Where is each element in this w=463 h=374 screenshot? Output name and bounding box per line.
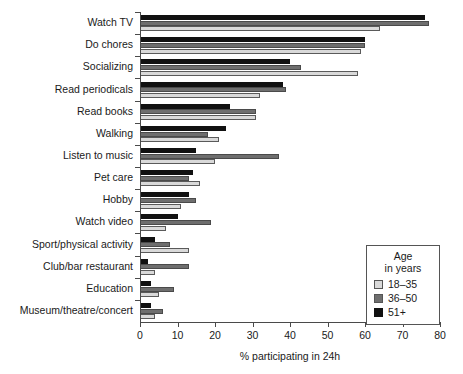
y-axis-label: Listen to music	[5, 150, 133, 161]
x-axis-tick	[140, 322, 141, 327]
legend-item-label: 51+	[388, 306, 406, 318]
bar-18-35	[140, 314, 155, 319]
bar-36-50	[140, 65, 301, 70]
bar-51plus	[140, 192, 189, 197]
bar-18-35	[140, 49, 361, 54]
y-axis-label: Hobby	[5, 194, 133, 205]
bar-51plus	[140, 37, 365, 42]
y-axis-label: Pet care	[5, 172, 133, 183]
bar-group	[140, 12, 440, 34]
y-axis-tick	[135, 34, 140, 35]
bar-51plus	[140, 15, 425, 20]
bar-36-50	[140, 43, 365, 48]
bar-51plus	[140, 237, 155, 242]
medium-gray-swatch	[374, 294, 383, 303]
bar-36-50	[140, 109, 256, 114]
legend-item-label: 18–35	[388, 278, 417, 290]
y-axis-label: Socializing	[5, 61, 133, 72]
bar-36-50	[140, 154, 279, 159]
legend-item: 36–50	[374, 291, 439, 305]
y-axis-tick	[135, 278, 140, 279]
bar-18-35	[140, 248, 189, 253]
x-axis-tick-label: 70	[388, 329, 418, 341]
legend-item: 18–35	[374, 277, 439, 291]
light-gray-swatch	[374, 280, 383, 289]
bar-51plus	[140, 281, 151, 286]
bar-group	[140, 101, 440, 123]
x-axis-tick-label: 0	[125, 329, 155, 341]
y-axis-label: Watch TV	[5, 17, 133, 28]
y-axis-tick	[135, 300, 140, 301]
legend-title-line-1: Age	[367, 250, 439, 262]
bar-group	[140, 211, 440, 233]
y-axis-label: Read books	[5, 106, 133, 117]
y-axis-tick	[135, 211, 140, 212]
bar-chart: Watch TVDo choresSocializingRead periodi…	[0, 0, 463, 374]
y-axis-label: Club/bar restaurant	[5, 261, 133, 272]
bar-18-35	[140, 137, 219, 142]
bar-group	[140, 56, 440, 78]
bar-51plus	[140, 104, 230, 109]
bar-51plus	[140, 82, 283, 87]
y-axis-label: Walking	[5, 128, 133, 139]
bar-36-50	[140, 264, 189, 269]
bar-51plus	[140, 259, 148, 264]
legend-items: 18–3536–5051+	[367, 277, 439, 319]
legend-title-line-2: in years	[367, 262, 439, 274]
bar-group	[140, 167, 440, 189]
bar-36-50	[140, 132, 208, 137]
bar-36-50	[140, 287, 174, 292]
bar-36-50	[140, 176, 189, 181]
y-axis-tick	[135, 167, 140, 168]
bar-51plus	[140, 59, 290, 64]
bar-51plus	[140, 214, 178, 219]
bar-group	[140, 78, 440, 100]
y-axis-tick	[135, 145, 140, 146]
x-axis-tick	[178, 322, 179, 327]
y-axis-tick	[135, 123, 140, 124]
bar-18-35	[140, 26, 380, 31]
bar-36-50	[140, 242, 170, 247]
y-axis-tick	[135, 256, 140, 257]
x-axis-tick-label: 30	[238, 329, 268, 341]
bar-36-50	[140, 21, 429, 26]
y-axis-label: Do chores	[5, 39, 133, 50]
bar-18-35	[140, 159, 215, 164]
x-axis-tick	[215, 322, 216, 327]
x-axis-tick	[440, 322, 441, 327]
y-axis-label: Museum/theatre/concert	[5, 305, 133, 316]
bar-51plus	[140, 148, 196, 153]
bar-18-35	[140, 71, 358, 76]
y-axis-label: Read periodicals	[5, 84, 133, 95]
legend-item-label: 36–50	[388, 292, 417, 304]
y-axis-tick	[135, 78, 140, 79]
y-axis-tick	[135, 189, 140, 190]
bar-51plus	[140, 126, 226, 131]
y-axis-labels: Watch TVDo choresSocializingRead periodi…	[0, 0, 133, 374]
x-axis-tick-label: 20	[200, 329, 230, 341]
x-axis-tick-label: 80	[425, 329, 455, 341]
bar-18-35	[140, 204, 181, 209]
bar-51plus	[140, 303, 151, 308]
bar-18-35	[140, 93, 260, 98]
x-axis-tick-label: 50	[313, 329, 343, 341]
x-axis-tick	[290, 322, 291, 327]
x-axis-tick-label: 10	[163, 329, 193, 341]
y-axis-line	[140, 12, 141, 322]
bar-18-35	[140, 270, 155, 275]
bar-18-35	[140, 181, 200, 186]
y-axis-tick	[135, 12, 140, 13]
bar-group	[140, 189, 440, 211]
bar-group	[140, 145, 440, 167]
bar-36-50	[140, 87, 286, 92]
bar-group	[140, 123, 440, 145]
y-axis-tick	[135, 233, 140, 234]
x-axis-tick-label: 60	[350, 329, 380, 341]
bar-36-50	[140, 220, 211, 225]
bar-36-50	[140, 198, 196, 203]
bar-18-35	[140, 115, 256, 120]
y-axis-label: Sport/physical activity	[5, 239, 133, 250]
bar-18-35	[140, 292, 159, 297]
y-axis-tick	[135, 56, 140, 57]
bar-36-50	[140, 309, 163, 314]
